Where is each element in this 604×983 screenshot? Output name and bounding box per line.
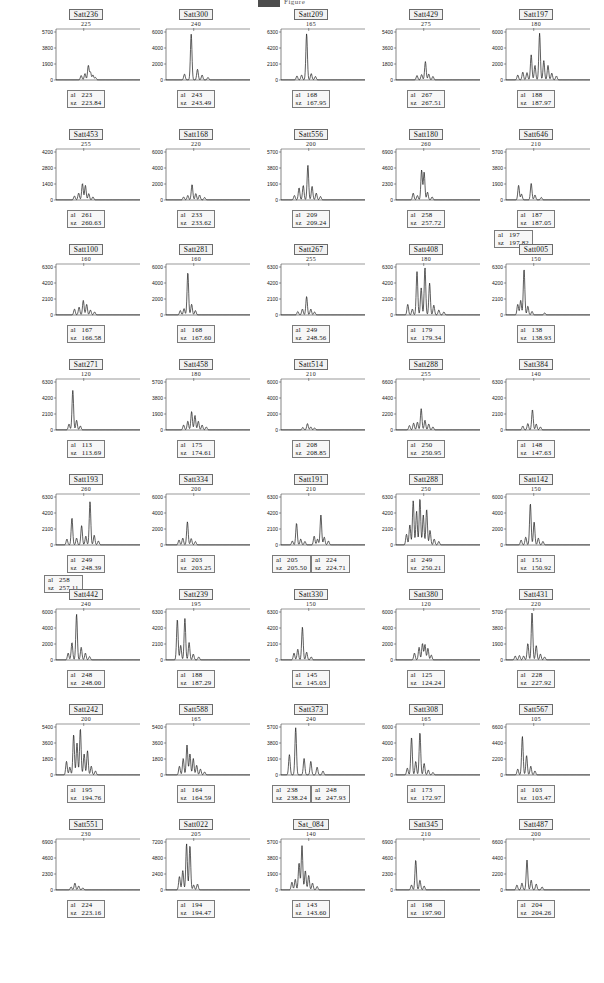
plot-area[interactable]: 5400360018000 <box>140 723 252 785</box>
allele-callout[interactable]: al223sz223.84 <box>67 90 106 108</box>
allele-callout[interactable]: al194sz194.47 <box>177 900 216 918</box>
locus-name-chip[interactable]: Satt267 <box>294 244 328 255</box>
plot-area[interactable]: 6300420021000 <box>370 493 482 555</box>
locus-panel[interactable]: Satt1971806000400020000al188sz187.97 <box>480 9 592 108</box>
locus-panel[interactable]: Satt5562005700380019000al209sz209.24 <box>255 129 367 228</box>
locus-panel[interactable]: Satt3841406300420021000al148sz147.63 <box>480 359 592 458</box>
locus-name-chip[interactable]: Satt588 <box>179 704 213 715</box>
allele-callout[interactable]: al248sz248.00 <box>67 670 106 688</box>
locus-name-chip[interactable]: Satt168 <box>179 129 213 140</box>
plot-area[interactable]: 5400360018000 <box>370 28 482 90</box>
allele-callout[interactable]: al209sz209.24 <box>292 210 331 228</box>
locus-name-chip[interactable]: Satt551 <box>69 819 103 830</box>
locus-panel[interactable]: Satt3342006000400020000al203sz203.25 <box>140 474 252 573</box>
allele-callout[interactable]: al168sz167.60 <box>177 325 216 343</box>
plot-area[interactable]: 6600440022000 <box>370 378 482 440</box>
plot-area[interactable]: 4200280014000 <box>30 148 142 210</box>
locus-name-chip[interactable]: Satt197 <box>519 9 553 20</box>
locus-panel[interactable]: Satt4312205700380019000al228sz227.92 <box>480 589 592 688</box>
locus-name-chip[interactable]: Satt191 <box>294 474 328 485</box>
locus-panel[interactable]: Satt4081806300420021000al179sz179.34 <box>370 244 482 343</box>
locus-name-chip[interactable]: Satt380 <box>409 589 443 600</box>
allele-callout[interactable]: al151sz150.92 <box>517 555 556 573</box>
plot-area[interactable]: 5700380019000 <box>255 148 367 210</box>
plot-area[interactable]: 6600440022000 <box>480 723 592 785</box>
allele-callout[interactable]: al198sz197.90 <box>407 900 446 918</box>
locus-name-chip[interactable]: Satt005 <box>519 244 553 255</box>
allele-callout[interactable]: al125sz124.24 <box>407 670 446 688</box>
locus-panel[interactable]: Satt3732405700380019000al238sz238.24al24… <box>255 704 367 803</box>
locus-panel[interactable]: Satt4532554200280014000al261sz260.63 <box>30 129 142 228</box>
locus-panel[interactable]: Satt1932606300420021000al249sz248.39al25… <box>30 474 142 593</box>
locus-name-chip[interactable]: Satt271 <box>69 359 103 370</box>
allele-callout[interactable]: al205sz205.50 <box>272 555 311 573</box>
locus-panel[interactable]: Sat_0841405700380019000al143sz143.60 <box>255 819 367 918</box>
plot-area[interactable]: 6900460023000 <box>370 838 482 900</box>
locus-name-chip[interactable]: Satt288 <box>409 474 443 485</box>
locus-name-chip[interactable]: Satt100 <box>69 244 103 255</box>
locus-panel[interactable]: Satt1001606300420021000al167sz166.58 <box>30 244 142 343</box>
allele-callout[interactable]: al103sz103.47 <box>517 785 556 803</box>
plot-area[interactable]: 6300420021000 <box>255 608 367 670</box>
locus-name-chip[interactable]: Satt142 <box>519 474 553 485</box>
plot-area[interactable]: 5700380019000 <box>140 378 252 440</box>
locus-panel[interactable]: Satt4292755400360018000al267sz267.51 <box>370 9 482 108</box>
allele-callout[interactable]: al145sz145.03 <box>292 670 331 688</box>
locus-panel[interactable]: Satt4422406000400020000al248sz248.00 <box>30 589 142 688</box>
locus-name-chip[interactable]: Satt458 <box>179 359 213 370</box>
plot-area[interactable]: 7200480024000 <box>140 838 252 900</box>
allele-callout[interactable]: al143sz143.60 <box>292 900 331 918</box>
allele-callout[interactable]: al173sz172.97 <box>407 785 446 803</box>
plot-area[interactable]: 6000400020000 <box>480 493 592 555</box>
locus-panel[interactable]: Satt0051506300420021000al138sz138.93 <box>480 244 592 343</box>
allele-callout[interactable]: al233sz233.62 <box>177 210 216 228</box>
locus-name-chip[interactable]: Satt193 <box>69 474 103 485</box>
allele-callout[interactable]: al175sz174.61 <box>177 440 216 458</box>
allele-callout[interactable]: al238sz238.24 <box>272 785 311 803</box>
allele-callout[interactable]: al249sz248.56 <box>292 325 331 343</box>
locus-panel[interactable]: Satt4581805700380019000al175sz174.61 <box>140 359 252 458</box>
plot-area[interactable]: 6000400020000 <box>140 28 252 90</box>
locus-name-chip[interactable]: Satt281 <box>179 244 213 255</box>
allele-callout[interactable]: al148sz147.63 <box>517 440 556 458</box>
locus-panel[interactable]: Satt3081656000400020000al173sz172.97 <box>370 704 482 803</box>
locus-name-chip[interactable]: Satt431 <box>519 589 553 600</box>
plot-area[interactable]: 6300420021000 <box>255 263 367 325</box>
plot-area[interactable]: 6900460023000 <box>30 838 142 900</box>
allele-callout[interactable]: al195sz194.76 <box>67 785 106 803</box>
locus-panel[interactable]: Satt5512306900460023000al224sz223.16 <box>30 819 142 918</box>
allele-callout[interactable]: al204sz204.26 <box>517 900 556 918</box>
plot-area[interactable]: 6300420021000 <box>140 608 252 670</box>
locus-panel[interactable]: Satt4872006600440022000al204sz204.26 <box>480 819 592 918</box>
plot-area[interactable]: 6000400020000 <box>30 608 142 670</box>
plot-area[interactable]: 6000400020000 <box>140 493 252 555</box>
allele-callout[interactable]: al187sz187.05 <box>517 210 556 228</box>
locus-panel[interactable]: Satt2711206300420021000al113sz113.69 <box>30 359 142 458</box>
allele-callout[interactable]: al228sz227.92 <box>517 670 556 688</box>
allele-callout[interactable]: al208sz208.85 <box>292 440 331 458</box>
allele-callout[interactable]: al248sz247.93 <box>311 785 350 803</box>
locus-panel[interactable]: Satt3801206000400020000al125sz124.24 <box>370 589 482 688</box>
locus-panel[interactable]: Satt3452106900460023000al198sz197.90 <box>370 819 482 918</box>
allele-callout[interactable]: al188sz187.97 <box>517 90 556 108</box>
allele-callout[interactable]: al224sz224.71 <box>311 555 350 573</box>
allele-callout[interactable]: al167sz166.58 <box>67 325 106 343</box>
locus-name-chip[interactable]: Satt373 <box>294 704 328 715</box>
locus-panel[interactable]: Satt3301506300420021000al145sz145.03 <box>255 589 367 688</box>
allele-callout[interactable]: al138sz138.93 <box>517 325 556 343</box>
allele-callout[interactable]: al261sz260.63 <box>67 210 106 228</box>
plot-area[interactable]: 6300420021000 <box>370 263 482 325</box>
locus-name-chip[interactable]: Satt646 <box>519 129 553 140</box>
allele-callout[interactable]: al224sz223.16 <box>67 900 106 918</box>
plot-area[interactable]: 6300420021000 <box>30 263 142 325</box>
plot-area[interactable]: 6000400020000 <box>140 263 252 325</box>
allele-callout[interactable]: al164sz164.59 <box>177 785 216 803</box>
locus-panel[interactable]: Satt1912106300420021000al205sz205.50al22… <box>255 474 367 573</box>
locus-panel[interactable]: Satt3002406000400020000al243sz243.49 <box>140 9 252 108</box>
locus-panel[interactable]: Satt2882506300420021000al249sz250.21 <box>370 474 482 573</box>
locus-panel[interactable]: Satt1802606900460023000al258sz257.72 <box>370 129 482 228</box>
plot-area[interactable]: 6000400020000 <box>370 608 482 670</box>
locus-panel[interactable]: Satt1682206000400020000al233sz233.62 <box>140 129 252 228</box>
allele-callout[interactable]: al168sz167.95 <box>292 90 331 108</box>
locus-panel[interactable]: Satt1421506000400020000al151sz150.92 <box>480 474 592 573</box>
